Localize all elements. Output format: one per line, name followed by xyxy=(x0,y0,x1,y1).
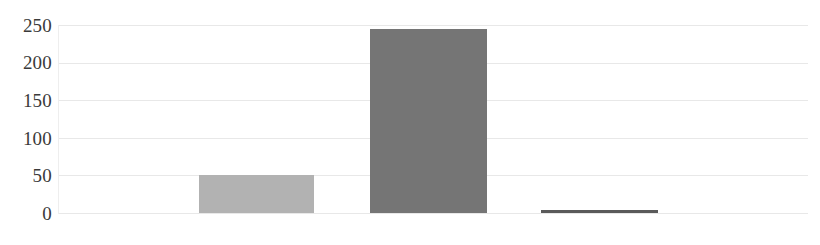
y-tick-label: 100 xyxy=(4,129,52,148)
bar-series-1-category-3[interactable] xyxy=(541,210,658,213)
y-tick-label: 150 xyxy=(4,91,52,110)
y-tick-label: 50 xyxy=(4,166,52,185)
y-axis-tick-labels: 250 200 150 100 50 0 xyxy=(0,0,52,245)
y-tick-label: 250 xyxy=(4,16,52,35)
y-tick-label: 0 xyxy=(4,204,52,223)
plot-area xyxy=(59,25,808,213)
bar-series-1-category-2[interactable] xyxy=(370,29,487,213)
gridline-0 xyxy=(59,213,808,214)
y-tick-label: 200 xyxy=(4,53,52,72)
bar-series-1-category-1[interactable] xyxy=(199,175,314,213)
bar-chart: 250 200 150 100 50 0 xyxy=(0,0,820,245)
gridline-250 xyxy=(59,25,808,26)
